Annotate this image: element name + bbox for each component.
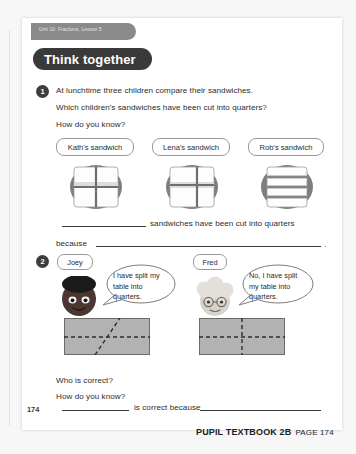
answer-blank-reason[interactable] xyxy=(200,410,321,411)
question-1-line-2: Which children's sandwiches have been cu… xyxy=(56,103,267,112)
question-1-line-1: At lunchtime three children compare thei… xyxy=(56,86,253,95)
answer-middle-is-correct-because: is correct because xyxy=(134,403,201,412)
footer-book-title: PUPIL TEXTBOOK 2B xyxy=(196,427,291,437)
footer-page-label: PAGE 174 xyxy=(295,428,333,437)
avatar-joey xyxy=(55,276,103,318)
speaker-name-fred: Fred xyxy=(193,254,227,270)
sandwich-label-rob: Rob's sandwich xyxy=(248,138,324,156)
page-root: Unit 10: Fractions, Lesson 5 Think toget… xyxy=(0,0,356,454)
question-2-prompt-1: Who is correct? xyxy=(56,376,113,385)
avatar-fred xyxy=(191,276,239,318)
think-together-banner: Think together xyxy=(33,48,152,70)
banner-title: Think together xyxy=(44,52,136,67)
unit-tab: Unit 10: Fractions, Lesson 5 xyxy=(31,23,136,40)
answer-blank-sandwiches[interactable] xyxy=(62,226,146,227)
sandwich-figure-lena xyxy=(156,163,228,211)
page-spine xyxy=(9,30,10,426)
unit-tab-label: Unit 10: Fractions, Lesson 5 xyxy=(39,27,102,32)
speech-bubble-fred: No, I have split my table into quarters. xyxy=(238,262,314,310)
footer: PUPIL TEXTBOOK 2B PAGE 174 xyxy=(196,427,334,437)
page-number: 174 xyxy=(27,405,39,414)
sandwich-figure-kath xyxy=(60,163,132,211)
answer-blank-because[interactable] xyxy=(96,246,321,247)
answer-blank-who[interactable] xyxy=(62,410,129,411)
sandwich-label-lena: Lena's sandwich xyxy=(152,138,230,156)
table-figure-joey xyxy=(64,318,150,355)
answer-prefix-because: because xyxy=(56,239,87,248)
question-2-prompt-2: How do you know? xyxy=(56,392,125,401)
speech-bubble-joey: I have split my table into quarters. xyxy=(102,262,176,310)
table-figure-fred xyxy=(199,318,285,355)
sandwich-figure-rob xyxy=(251,163,323,211)
question-1-number: 1 xyxy=(36,85,49,98)
answer-suffix-sandwiches: sandwiches have been cut into quarters xyxy=(150,219,295,228)
sandwich-label-kath: Kath's sandwich xyxy=(56,138,134,156)
speaker-name-joey: Joey xyxy=(57,254,93,270)
speech-bubble-fred-text: No, I have split my table into quarters. xyxy=(249,271,303,303)
question-1-line-3: How do you know? xyxy=(56,120,125,129)
question-2-number: 2 xyxy=(36,255,49,268)
speech-bubble-joey-text: I have split my table into quarters. xyxy=(113,271,167,303)
answer-period: . xyxy=(324,240,326,249)
